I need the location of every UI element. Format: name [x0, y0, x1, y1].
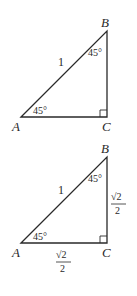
hypotenuse-label: 1 — [58, 183, 64, 197]
vertex-b-label: B — [101, 15, 109, 30]
vertex-c-label: C — [102, 245, 111, 260]
triangle-2: B A C 45° 45° 1 √2 2 √2 2 — [11, 141, 126, 274]
right-angle-marker — [100, 236, 107, 243]
angle-a-label: 45° — [33, 231, 47, 242]
leg-ac-denominator: 2 — [60, 263, 65, 274]
angle-b-label: 45° — [88, 47, 102, 58]
angle-b-label: 45° — [88, 173, 102, 184]
leg-bc-denominator: 2 — [115, 205, 120, 216]
triangle-diagrams: B A C 45° 45° 1 B A C 45° 45° 1 √2 2 √2 … — [0, 0, 137, 296]
leg-ac-numerator: √2 — [56, 249, 67, 260]
right-angle-marker — [100, 110, 107, 117]
vertex-b-label: B — [101, 141, 109, 156]
triangle-1: B A C 45° 45° 1 — [11, 15, 111, 134]
leg-bc-fraction: √2 2 — [111, 191, 126, 216]
angle-a-label: 45° — [33, 105, 47, 116]
leg-bc-numerator: √2 — [111, 191, 122, 202]
vertex-a-label: A — [11, 119, 20, 134]
leg-ac-fraction: √2 2 — [56, 249, 71, 274]
hypotenuse-label: 1 — [58, 55, 64, 69]
vertex-a-label: A — [11, 245, 20, 260]
vertex-c-label: C — [102, 119, 111, 134]
